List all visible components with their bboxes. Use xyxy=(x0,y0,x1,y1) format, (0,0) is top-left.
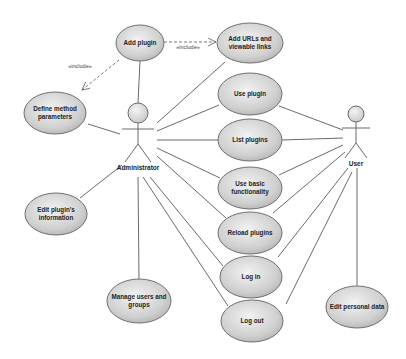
association-line-administrator xyxy=(138,61,140,103)
association-line-administrator xyxy=(88,124,120,134)
actor-right-leg xyxy=(138,144,151,162)
use-case-label: Add plugin xyxy=(124,39,157,47)
association-line-administrator xyxy=(80,165,122,198)
association-line-user xyxy=(279,106,343,130)
use-case-label: Log in xyxy=(242,273,261,281)
use-case-edit-plugin-information[interactable]: Edit plugin'sinformation xyxy=(25,193,87,235)
use-case-label: parameters xyxy=(38,113,72,121)
use-case-label: Reload plugins xyxy=(227,229,273,237)
association-line-administrator xyxy=(157,156,226,218)
actor-user[interactable]: User xyxy=(342,106,370,167)
use-case-label: List plugins xyxy=(232,136,268,144)
use-case-use-basic-functionality[interactable]: Use basicfunctionality xyxy=(218,167,282,209)
use-case-label: Edit personal data xyxy=(330,303,385,311)
use-case-label: Log out xyxy=(240,317,264,325)
use-case-reload-plugins[interactable]: Reload plugins xyxy=(218,212,282,254)
use-case-label: functionality xyxy=(231,188,269,196)
association-line-user xyxy=(282,138,343,140)
use-case-define-method-parameters[interactable]: Define methodparameters xyxy=(24,92,86,134)
association-line-administrator xyxy=(157,148,220,178)
use-case-label: Define method xyxy=(33,105,77,112)
use-case-list-plugins[interactable]: List plugins xyxy=(218,119,282,161)
use-case-manage-users-groups[interactable]: Manage users andgroups xyxy=(107,279,171,323)
actor-right-leg xyxy=(356,143,367,158)
actor-label: User xyxy=(349,160,364,167)
use-case-add-urls[interactable]: Add URLs andviewable links xyxy=(217,23,283,63)
use-case-add-plugin[interactable]: Add plugin xyxy=(116,25,164,61)
use-case-edit-personal-data[interactable]: Edit personal data xyxy=(326,286,388,328)
association-line-administrator xyxy=(150,177,223,266)
use-cases-layer: Add pluginAdd URLs andviewable linksDefi… xyxy=(24,23,388,342)
actor-administrator[interactable]: Administrator xyxy=(117,103,160,171)
association-line-user xyxy=(278,168,348,257)
use-case-log-out[interactable]: Log out xyxy=(221,300,283,342)
use-case-label: groups xyxy=(128,301,150,309)
use-case-label: Use plugin xyxy=(234,90,266,98)
use-case-label: Use basic xyxy=(235,180,265,187)
association-line-user xyxy=(286,172,352,304)
use-case-label: viewable links xyxy=(229,43,272,50)
association-line-user xyxy=(279,145,343,175)
include-label: «include» xyxy=(68,63,92,69)
actor-left-leg xyxy=(345,143,356,158)
use-case-use-plugin[interactable]: Use plugin xyxy=(218,73,282,115)
actor-label: Administrator xyxy=(117,164,160,171)
association-line-administrator xyxy=(138,177,139,279)
association-line-administrator xyxy=(157,105,219,131)
use-case-diagram: «include»«include» Add pluginAdd URLs an… xyxy=(0,0,406,359)
actor-head-icon xyxy=(348,106,364,122)
association-line-administrator xyxy=(157,62,225,123)
use-case-log-in[interactable]: Log in xyxy=(220,256,282,298)
include-label: «include» xyxy=(176,44,200,50)
use-case-label: information xyxy=(39,214,74,221)
use-case-label: Add URLs and xyxy=(228,35,272,42)
actor-left-leg xyxy=(125,144,138,162)
actor-head-icon xyxy=(128,103,148,123)
